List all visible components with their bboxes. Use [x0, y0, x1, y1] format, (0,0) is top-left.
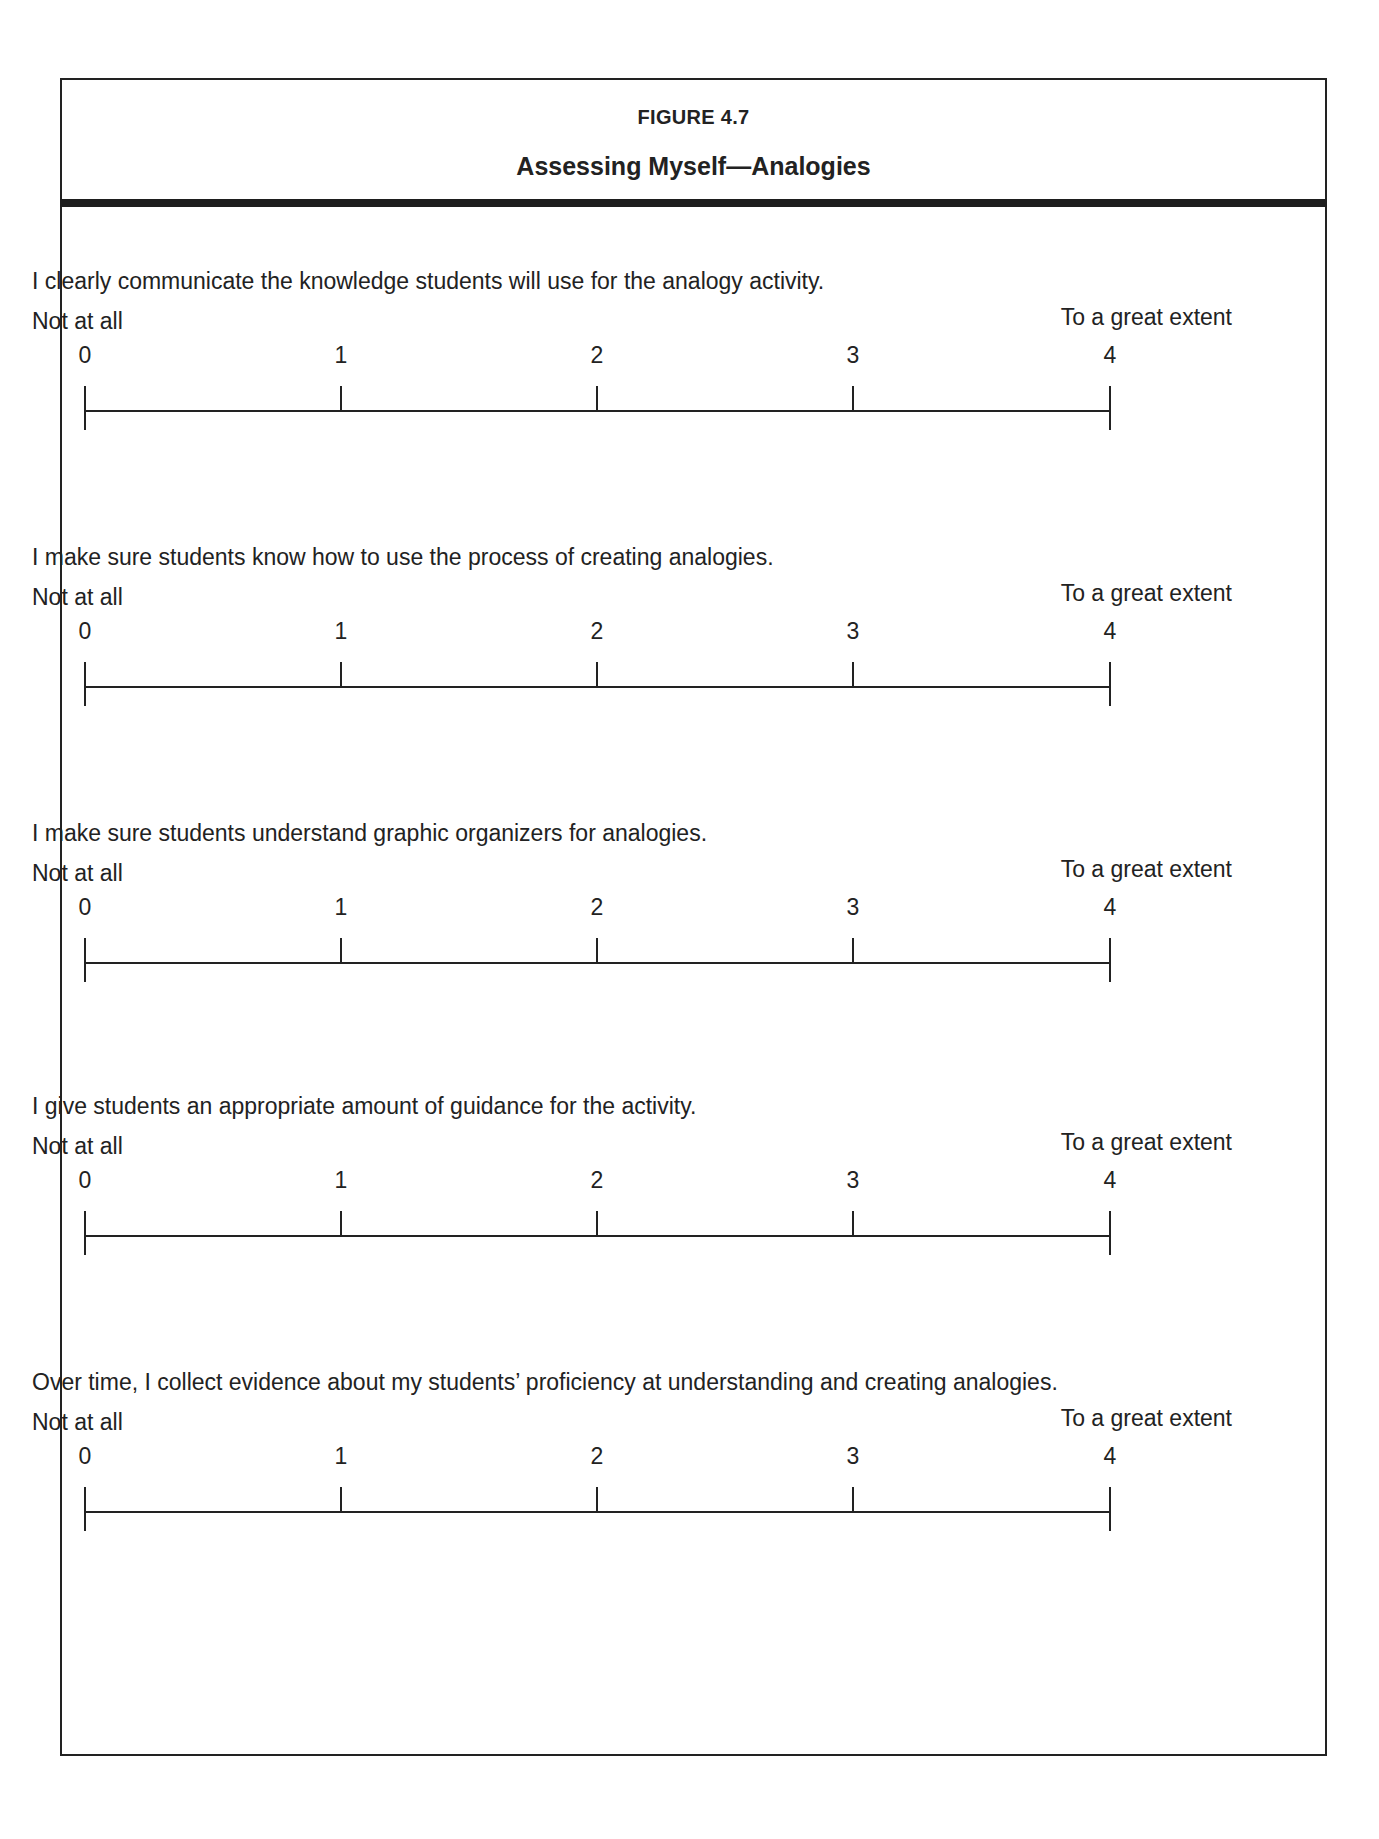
scale-tick-1[interactable]: [340, 1487, 342, 1512]
rating-item: I give students an appropriate amount of…: [32, 1093, 1232, 1293]
scale-tick-3[interactable]: [852, 386, 854, 411]
scale-tick-2[interactable]: [596, 1211, 598, 1236]
scale-value-0: 0: [70, 1167, 100, 1194]
scale-value-1: 1: [326, 1167, 356, 1194]
scale-value-2: 2: [582, 894, 612, 921]
scale-tick-1[interactable]: [340, 662, 342, 687]
header-divider: [60, 199, 1327, 207]
scale-value-3: 3: [838, 1443, 868, 1470]
scale-low-label: Not at all: [32, 860, 123, 887]
scale-tick-4[interactable]: [1109, 1211, 1111, 1255]
scale-tick-4[interactable]: [1109, 386, 1111, 430]
scale-value-4: 4: [1095, 618, 1125, 645]
scale-value-4: 4: [1095, 1167, 1125, 1194]
scale-value-4: 4: [1095, 894, 1125, 921]
rating-scale-line[interactable]: [85, 962, 1111, 964]
scale-value-0: 0: [70, 894, 100, 921]
item-prompt: Over time, I collect evidence about my s…: [32, 1369, 1058, 1396]
scale-tick-2[interactable]: [596, 386, 598, 411]
rating-item: I make sure students understand graphic …: [32, 820, 1232, 1020]
scale-tick-0[interactable]: [84, 1211, 86, 1255]
item-prompt: I clearly communicate the knowledge stud…: [32, 268, 824, 295]
scale-tick-2[interactable]: [596, 662, 598, 687]
scale-value-3: 3: [838, 342, 868, 369]
scale-value-0: 0: [70, 1443, 100, 1470]
scale-value-1: 1: [326, 894, 356, 921]
rating-item: I clearly communicate the knowledge stud…: [32, 268, 1232, 468]
scale-low-label: Not at all: [32, 1133, 123, 1160]
scale-tick-3[interactable]: [852, 1211, 854, 1236]
scale-value-4: 4: [1095, 1443, 1125, 1470]
scale-tick-0[interactable]: [84, 386, 86, 430]
scale-high-label: To a great extent: [1061, 1129, 1232, 1156]
rating-scale-line[interactable]: [85, 1511, 1111, 1513]
scale-tick-0[interactable]: [84, 938, 86, 982]
scale-tick-4[interactable]: [1109, 1487, 1111, 1531]
scale-high-label: To a great extent: [1061, 580, 1232, 607]
item-prompt: I make sure students understand graphic …: [32, 820, 707, 847]
scale-value-4: 4: [1095, 342, 1125, 369]
scale-value-0: 0: [70, 618, 100, 645]
scale-value-2: 2: [582, 342, 612, 369]
scale-value-3: 3: [838, 618, 868, 645]
scale-value-2: 2: [582, 1443, 612, 1470]
scale-low-label: Not at all: [32, 308, 123, 335]
scale-tick-3[interactable]: [852, 938, 854, 963]
scale-tick-1[interactable]: [340, 386, 342, 411]
scale-tick-4[interactable]: [1109, 938, 1111, 982]
scale-tick-3[interactable]: [852, 1487, 854, 1512]
item-prompt: I make sure students know how to use the…: [32, 544, 774, 571]
item-prompt: I give students an appropriate amount of…: [32, 1093, 696, 1120]
scale-value-3: 3: [838, 894, 868, 921]
scale-value-1: 1: [326, 618, 356, 645]
scale-tick-4[interactable]: [1109, 662, 1111, 706]
scale-tick-2[interactable]: [596, 1487, 598, 1512]
rating-scale-line[interactable]: [85, 410, 1111, 412]
scale-low-label: Not at all: [32, 584, 123, 611]
scale-value-3: 3: [838, 1167, 868, 1194]
scale-high-label: To a great extent: [1061, 1405, 1232, 1432]
rating-scale-line[interactable]: [85, 686, 1111, 688]
scale-value-2: 2: [582, 618, 612, 645]
scale-value-2: 2: [582, 1167, 612, 1194]
scale-tick-3[interactable]: [852, 662, 854, 687]
scale-high-label: To a great extent: [1061, 856, 1232, 883]
scale-value-1: 1: [326, 342, 356, 369]
scale-low-label: Not at all: [32, 1409, 123, 1436]
scale-value-1: 1: [326, 1443, 356, 1470]
rating-scale-line[interactable]: [85, 1235, 1111, 1237]
rating-item: Over time, I collect evidence about my s…: [32, 1369, 1232, 1569]
scale-tick-1[interactable]: [340, 1211, 342, 1236]
figure-label: FIGURE 4.7: [62, 106, 1325, 129]
rating-item: I make sure students know how to use the…: [32, 544, 1232, 744]
scale-tick-1[interactable]: [340, 938, 342, 963]
scale-tick-0[interactable]: [84, 1487, 86, 1531]
scale-tick-2[interactable]: [596, 938, 598, 963]
scale-tick-0[interactable]: [84, 662, 86, 706]
figure-header: FIGURE 4.7 Assessing Myself—Analogies: [62, 80, 1325, 202]
figure-title: Assessing Myself—Analogies: [62, 152, 1325, 181]
scale-high-label: To a great extent: [1061, 304, 1232, 331]
scale-value-0: 0: [70, 342, 100, 369]
